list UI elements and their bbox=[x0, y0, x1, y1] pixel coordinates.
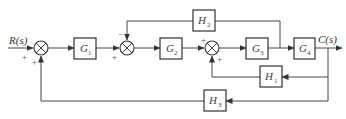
s1-feedback-sign: + bbox=[32, 57, 37, 67]
input-label: R(s) bbox=[8, 34, 28, 47]
svg-text:1: 1 bbox=[274, 77, 278, 85]
block-diagram: + + + − + + G 1 G 2 G 3 G 4 H 2 H 1 H 3 … bbox=[0, 0, 346, 119]
svg-text:4: 4 bbox=[307, 49, 311, 57]
block-g4: G 4 bbox=[294, 38, 315, 59]
output-label: C(s) bbox=[318, 33, 337, 46]
h3-feedback-out-line bbox=[41, 56, 204, 101]
svg-text:2: 2 bbox=[174, 49, 178, 57]
summing-junction-1 bbox=[34, 41, 48, 55]
svg-text:G: G bbox=[80, 42, 88, 54]
svg-text:H: H bbox=[264, 70, 274, 82]
summing-junction-3 bbox=[205, 41, 219, 55]
s2-feedback-sign: − bbox=[118, 29, 123, 39]
svg-text:G: G bbox=[299, 42, 307, 54]
svg-text:1: 1 bbox=[88, 49, 92, 57]
svg-text:3: 3 bbox=[260, 49, 264, 57]
s3-input-sign: + bbox=[201, 35, 206, 45]
svg-text:H: H bbox=[208, 94, 218, 106]
block-h3: H 3 bbox=[204, 90, 226, 111]
block-g1: G 1 bbox=[74, 38, 96, 59]
svg-text:G: G bbox=[252, 42, 260, 54]
s2-input-sign: + bbox=[112, 52, 117, 62]
s1-input-sign: + bbox=[22, 52, 27, 62]
svg-text:H: H bbox=[197, 14, 207, 26]
svg-text:3: 3 bbox=[218, 101, 222, 109]
block-h1: H 1 bbox=[260, 66, 282, 87]
summing-junction-2 bbox=[120, 41, 134, 55]
block-h2: H 2 bbox=[193, 10, 215, 31]
s3-feedback-sign: + bbox=[217, 54, 222, 64]
h2-feedback-out-line bbox=[127, 21, 193, 40]
svg-text:2: 2 bbox=[207, 21, 211, 29]
block-g2: G 2 bbox=[160, 38, 182, 59]
svg-text:G: G bbox=[166, 42, 174, 54]
block-g3: G 3 bbox=[246, 38, 268, 59]
